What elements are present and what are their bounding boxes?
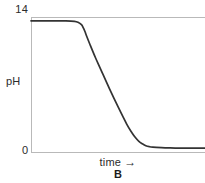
ph-curve-path (31, 21, 205, 148)
ph-vs-time-figure: 14 0 pH time→ B (0, 0, 205, 183)
x-axis-label-text: time (100, 156, 122, 168)
figure-caption: B (31, 168, 205, 181)
